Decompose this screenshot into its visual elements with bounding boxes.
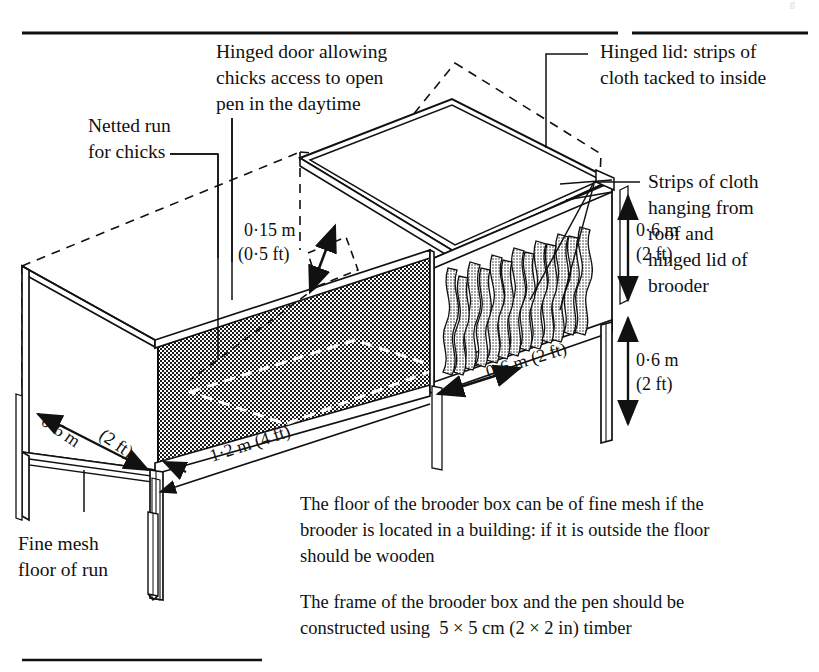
dimension-leg-height-label: 0·6 m (2 ft): [636, 350, 679, 395]
label-netted-run-line-2: for chicks: [88, 141, 165, 162]
label-hinged-door: Hinged door allowing chicks access to op…: [216, 41, 387, 114]
label-strips-line-5: brooder: [648, 275, 709, 296]
note-floor-line-3: should be wooden: [300, 546, 435, 566]
note-frame: The frame of the brooder box and the pen…: [300, 592, 684, 639]
label-fine-mesh-floor: Fine mesh floor of run: [18, 533, 108, 580]
label-strips-line-2: hanging from: [648, 197, 754, 218]
label-hinged-lid: Hinged lid: strips of cloth tacked to in…: [600, 41, 766, 88]
note-floor-line-2: brooder is located in a building: if it …: [300, 520, 710, 540]
dim-run-depth-text-b: (2 ft): [95, 425, 137, 463]
label-fine-mesh-line-1: Fine mesh: [18, 533, 99, 554]
label-netted-run: Netted run for chicks: [88, 115, 171, 162]
dim-leg-height-line-1: 0·6 m: [636, 350, 679, 370]
figure-page: g: [0, 0, 819, 672]
note-floor: The floor of the brooder box can be of f…: [300, 494, 710, 566]
label-hinged-lid-line-1: Hinged lid: strips of: [600, 41, 757, 62]
label-fine-mesh-line-2: floor of run: [18, 559, 108, 580]
label-hinged-door-line-2: chicks access to open: [216, 67, 384, 88]
dimension-door-height-label: 0·15 m (0·5 ft): [238, 220, 296, 265]
label-hinged-lid-line-2: cloth tacked to inside: [600, 67, 766, 88]
brooder-box-illustration: Hinged door allowing chicks access to op…: [0, 0, 819, 672]
dim-brooder-height-line-2: (2 ft): [636, 244, 672, 265]
label-hinged-door-line-1: Hinged door allowing: [216, 41, 387, 62]
dim-run-depth-text-a: 0·6 m: [38, 411, 84, 451]
run-leg-stub: [148, 512, 158, 600]
note-frame-line-1: The frame of the brooder box and the pen…: [300, 592, 684, 612]
dim-brooder-height-line-1: 0·6 m: [636, 220, 679, 240]
dim-door-height-line-2: (0·5 ft): [238, 244, 289, 265]
dim-door-height-line-1: 0·15 m: [244, 220, 296, 240]
note-floor-line-1: The floor of the brooder box can be of f…: [300, 494, 704, 514]
dimension-run-depth-label: 0·6 m (2 ft): [38, 411, 137, 463]
note-frame-line-2: constructed using 5 × 5 cm (2 × 2 in) ti…: [300, 618, 632, 639]
label-netted-run-line-1: Netted run: [88, 115, 171, 136]
label-hinged-door-line-3: pen in the daytime: [216, 93, 361, 114]
label-strips-line-1: Strips of cloth: [648, 171, 759, 192]
dim-leg-height-line-2: (2 ft): [636, 374, 672, 395]
